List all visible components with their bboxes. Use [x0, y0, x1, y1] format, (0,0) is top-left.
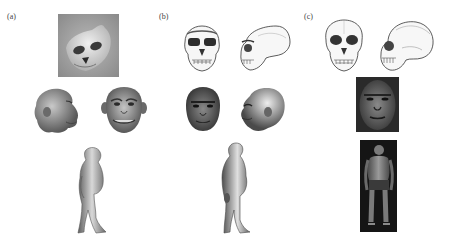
panel-label-c: (c) — [304, 12, 313, 21]
head-front-reconstruction-a — [100, 84, 148, 136]
head-front-reconstruction-b — [183, 85, 223, 133]
face-photo-reconstruction-c — [356, 77, 399, 132]
panel-label-b: (b) — [159, 12, 168, 21]
skull-front-drawing-c — [322, 18, 366, 74]
head-side-reconstruction-b — [238, 84, 286, 134]
head-side-reconstruction-a — [30, 84, 82, 136]
skull-side-drawing-c — [378, 18, 436, 74]
full-body-reconstruction-b — [218, 142, 256, 236]
skull-side-drawing-b — [238, 22, 292, 74]
skull-front-drawing-b — [181, 24, 223, 74]
full-body-photo-reconstruction-c — [360, 140, 397, 232]
skull-photo-a — [58, 14, 119, 77]
panel-label-a: (a) — [7, 12, 16, 21]
full-body-reconstruction-a — [72, 146, 114, 236]
